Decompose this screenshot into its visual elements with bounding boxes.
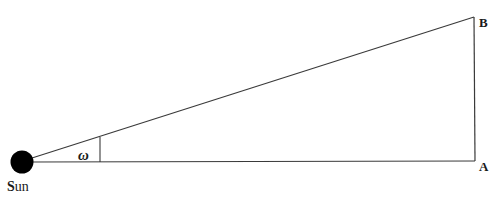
sun-label: Sun: [7, 179, 29, 194]
point-b-label: B: [479, 15, 488, 30]
angle-omega-label: ω: [78, 147, 89, 163]
point-a-label: A: [479, 159, 489, 174]
line-sun-to-a: [32, 161, 475, 162]
sun-label-initial: S: [7, 179, 15, 194]
sun-label-rest: un: [15, 179, 29, 194]
line-sun-to-b: [32, 17, 474, 158]
line-a-to-b: [474, 17, 475, 161]
sun-icon: [11, 151, 34, 174]
diagram-canvas: ω B A Sun: [0, 0, 497, 206]
